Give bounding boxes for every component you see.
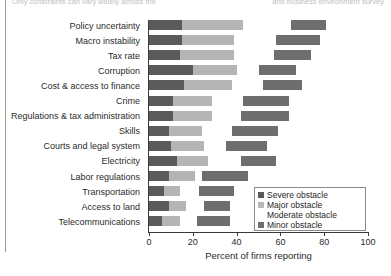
bar-segment-major: [182, 35, 235, 45]
bar-segment-moderate: [204, 141, 226, 151]
bar-segment-severe: [149, 126, 169, 136]
legend-label-minor: Minor obstacle: [267, 220, 322, 230]
bar-segment-severe: [149, 80, 184, 90]
legend-label-moderate: Moderate obstacle: [267, 210, 337, 220]
bar-row: [149, 50, 368, 60]
category-label: Cost & access to finance: [41, 81, 140, 91]
bar-segment-severe: [149, 141, 171, 151]
bar-segment-minor: [274, 50, 311, 60]
bar-row: [149, 141, 368, 151]
category-label: Tax rate: [108, 51, 140, 61]
bar-segment-major: [164, 186, 179, 196]
bar-row: [149, 111, 368, 121]
x-tick-label: 60: [275, 237, 285, 247]
category-label: Policy uncertainty: [69, 21, 140, 31]
bar-segment-major: [173, 96, 212, 106]
bar-segment-severe: [149, 96, 173, 106]
bar-segment-major: [173, 111, 212, 121]
category-label-column: Policy uncertaintyMacro instabilityTax r…: [0, 20, 146, 232]
bar-segment-minor: [199, 186, 234, 196]
bar-segment-severe: [149, 216, 162, 226]
bar-row: [149, 171, 368, 181]
bar-segment-moderate: [232, 80, 263, 90]
bar-segment-severe: [149, 20, 182, 30]
bar-segment-moderate: [180, 186, 200, 196]
legend-item: Severe obstacle: [258, 190, 362, 200]
bar-row: [149, 156, 368, 166]
bar-segment-minor: [263, 80, 302, 90]
bar-row: [149, 126, 368, 136]
x-tick-label: 100: [360, 237, 375, 247]
bar-segment-severe: [149, 35, 182, 45]
x-tick-mark: [193, 232, 194, 236]
legend-swatch-minor-icon: [258, 222, 264, 228]
legend-item: Major obstacle: [258, 200, 362, 210]
category-label: Labor regulations: [70, 172, 140, 182]
bar-segment-moderate: [186, 201, 204, 211]
bar-segment-severe: [149, 171, 169, 181]
bar-segment-major: [182, 20, 243, 30]
bar-segment-minor: [197, 216, 230, 226]
bar-segment-minor: [259, 65, 296, 75]
bar-segment-major: [171, 141, 204, 151]
bar-segment-major: [169, 126, 202, 136]
clipped-caption: Only constraints can vary widely across …: [12, 0, 384, 7]
bar-segment-moderate: [208, 156, 241, 166]
bar-segment-moderate: [237, 65, 259, 75]
bar-row: [149, 35, 368, 45]
bar-segment-moderate: [202, 126, 233, 136]
x-tick-mark: [237, 232, 238, 236]
category-label: Electricity: [101, 156, 140, 166]
category-label: Access to land: [81, 202, 140, 212]
category-label: Macro instability: [75, 36, 140, 46]
bar-segment-minor: [276, 35, 320, 45]
bar-segment-major: [177, 156, 208, 166]
bar-segment-minor: [202, 171, 248, 181]
bar-segment-moderate: [213, 96, 244, 106]
bar-segment-minor: [241, 156, 276, 166]
bar-segment-major: [184, 80, 232, 90]
bar-segment-severe: [149, 111, 173, 121]
legend-swatch-severe-icon: [258, 192, 264, 198]
bar-segment-severe: [149, 186, 164, 196]
chart-legend: Severe obstacle Major obstacle Moderate …: [254, 187, 366, 231]
x-tick-mark: [149, 232, 150, 236]
x-tick-mark: [280, 232, 281, 236]
bar-segment-major: [169, 171, 195, 181]
category-label: Regulations & tax administration: [11, 111, 140, 121]
category-label: Courts and legal system: [43, 141, 140, 151]
legend-swatch-major-icon: [258, 202, 264, 208]
category-label: Transportation: [82, 187, 140, 197]
bar-segment-major: [193, 65, 237, 75]
bar-segment-moderate: [243, 20, 291, 30]
legend-label-major: Major obstacle: [267, 200, 322, 210]
x-tick-label: 80: [319, 237, 329, 247]
category-label: Telecommunications: [58, 217, 140, 227]
category-label: Corruption: [98, 66, 140, 76]
caption-right-text: and business environment survey: [272, 0, 384, 7]
category-label: Crime: [116, 96, 140, 106]
chart-page: Only constraints can vary widely across …: [0, 0, 391, 276]
bar-segment-severe: [149, 156, 177, 166]
x-tick-mark: [324, 232, 325, 236]
caption-left-text: Only constraints can vary widely across …: [12, 0, 156, 6]
bar-segment-moderate: [213, 111, 241, 121]
bar-row: [149, 96, 368, 106]
bar-segment-minor: [204, 201, 230, 211]
bar-segment-major: [180, 50, 235, 60]
bar-segment-severe: [149, 50, 180, 60]
bar-segment-moderate: [180, 216, 198, 226]
bar-segment-moderate: [234, 35, 276, 45]
x-tick-mark: [368, 232, 369, 236]
legend-label-severe: Severe obstacle: [267, 190, 328, 200]
bar-segment-severe: [149, 201, 169, 211]
bar-segment-major: [162, 216, 180, 226]
bar-segment-moderate: [234, 50, 273, 60]
legend-item: Moderate obstacle: [258, 210, 362, 220]
legend-swatch-moderate-icon: [258, 212, 264, 218]
x-tick-label: 0: [146, 237, 151, 247]
x-tick-label: 20: [188, 237, 198, 247]
legend-item: Minor obstacle: [258, 220, 362, 230]
bar-segment-minor: [243, 96, 289, 106]
bar-segment-minor: [232, 126, 278, 136]
